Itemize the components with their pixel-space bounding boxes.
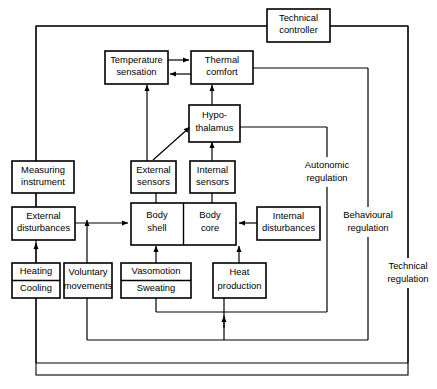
technical-controller-line2: controller	[279, 24, 318, 35]
box-heating-cooling[interactable]: Heating Cooling	[12, 263, 60, 298]
box-thermal-comfort[interactable]: Thermal comfort	[191, 51, 253, 84]
technical-regulation-line2: regulation	[387, 273, 428, 284]
internal-disturbances-line1: Internal	[273, 210, 304, 221]
technical-regulation-line1: Technical	[388, 260, 427, 271]
thermal-comfort-line1: Thermal	[205, 54, 239, 65]
box-external-sensors[interactable]: External sensors	[131, 161, 176, 193]
temperature-sensation-line1: Temperature	[110, 54, 163, 65]
box-measuring-instrument[interactable]: Measuring instrument	[12, 161, 74, 193]
cooling-label: Cooling	[20, 282, 52, 293]
vasomotion-label: Vasomotion	[132, 265, 181, 276]
heat-production-line1: Heat	[230, 266, 250, 277]
heat-production-line2: production	[218, 280, 262, 291]
autonomic-regulation-line2: regulation	[306, 172, 347, 183]
body-core-line2: core	[201, 222, 219, 233]
internal-sensors-line1: Internal	[197, 164, 228, 175]
body-core-line1: Body	[199, 209, 221, 220]
hypothalamus-line2: thalamus	[195, 122, 233, 133]
autonomic-regulation-line1: Autonomic	[305, 159, 350, 170]
label-autonomic-regulation: Autonomic regulation	[296, 157, 358, 187]
box-vasomotion-sweating[interactable]: Vasomotion Sweating	[121, 263, 191, 298]
thermal-comfort-line2: comfort	[206, 66, 238, 77]
box-technical-controller[interactable]: Technical controller	[267, 9, 330, 42]
measuring-instrument-line2: instrument	[21, 176, 65, 187]
heating-label: Heating	[20, 265, 52, 276]
box-voluntary-movements[interactable]: Voluntary movements	[64, 263, 113, 298]
external-sensors-line2: sensors	[137, 176, 170, 187]
voluntary-movements-line2: movements	[64, 280, 113, 291]
link-external-sensors-to-hypothalamus	[153, 127, 190, 160]
box-temperature-sensation[interactable]: Temperature sensation	[105, 51, 168, 84]
voluntary-movements-line1: Voluntary	[68, 266, 107, 277]
sweating-label: Sweating	[137, 282, 176, 293]
label-technical-regulation: Technical regulation	[377, 258, 437, 288]
external-disturbances-line2: disturbances	[17, 222, 70, 233]
behavioural-regulation-line2: regulation	[347, 222, 388, 233]
box-internal-sensors[interactable]: Internal sensors	[190, 161, 235, 193]
body-shell-line1: Body	[146, 209, 168, 220]
box-body[interactable]: Body shell Body core	[131, 203, 236, 245]
internal-disturbances-line2: disturbances	[262, 222, 315, 233]
behavioural-regulation-line1: Behavioural	[343, 209, 393, 220]
external-sensors-line1: External	[136, 164, 170, 175]
diagram-canvas: Technical controller Temperature sensati…	[0, 0, 437, 389]
box-heat-production[interactable]: Heat production	[213, 263, 266, 298]
hypothalamus-line1: Hypo-	[202, 109, 227, 120]
temperature-sensation-line2: sensation	[116, 66, 156, 77]
technical-controller-line1: Technical	[279, 12, 318, 23]
box-internal-disturbances[interactable]: Internal disturbances	[257, 207, 320, 240]
label-behavioural-regulation: Behavioural regulation	[336, 207, 400, 237]
thermoregulation-diagram: Technical controller Temperature sensati…	[0, 0, 437, 389]
measuring-instrument-line1: Measuring	[21, 164, 65, 175]
external-disturbances-line1: External	[26, 210, 60, 221]
box-hypothalamus[interactable]: Hypo- thalamus	[189, 105, 240, 142]
box-external-disturbances[interactable]: External disturbances	[12, 207, 75, 240]
body-shell-line2: shell	[147, 222, 166, 233]
internal-sensors-line2: sensors	[196, 176, 229, 187]
